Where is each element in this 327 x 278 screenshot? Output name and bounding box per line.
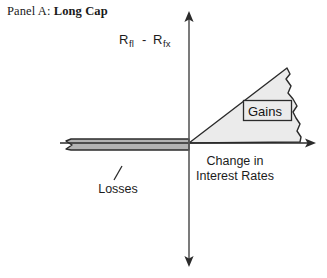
y-axis-label: R fl - R fx: [119, 32, 171, 49]
losses-leader-line: [114, 166, 122, 180]
y-axis-label-base-1: R: [119, 32, 128, 47]
losses-label: Losses: [98, 182, 138, 196]
y-axis-label-base-2: R: [153, 32, 162, 47]
losses-region-shape: [66, 139, 189, 150]
y-axis-label-sub-1: fl: [129, 38, 134, 49]
y-axis-label-sub-2: fx: [163, 38, 171, 49]
gains-callout: Gains: [244, 101, 292, 121]
losses-callout: Losses: [98, 166, 138, 196]
x-axis-label-line-1: Change in: [207, 154, 264, 168]
x-axis-label: Change in Interest Rates: [196, 154, 274, 183]
figure-page: Panel A: Long Cap R fl - R fx Gains Ch: [0, 0, 327, 278]
payoff-diagram: R fl - R fx Gains Change in Interest Rat…: [0, 0, 327, 278]
y-axis-label-operator: -: [142, 32, 146, 47]
x-axis-label-line-2: Interest Rates: [196, 169, 274, 183]
gains-label: Gains: [248, 104, 282, 119]
